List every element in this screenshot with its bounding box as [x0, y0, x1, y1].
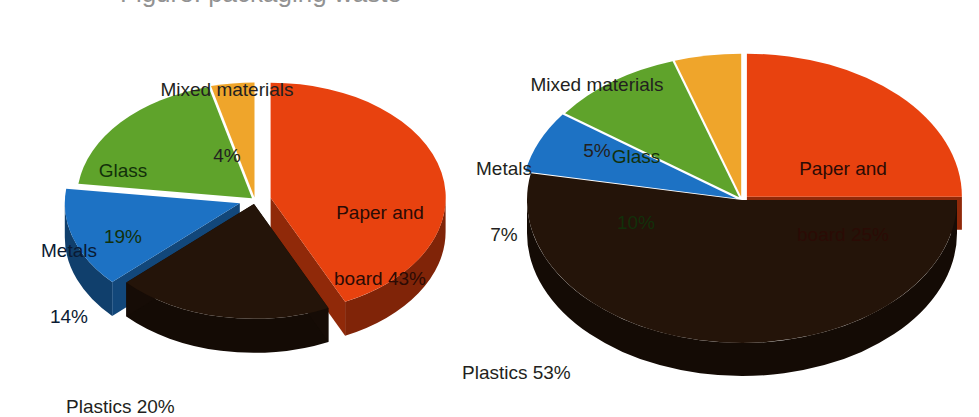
- right-label-paper-line1: Paper and: [780, 158, 906, 180]
- left-label-paper-and-board: Paper and board 43%: [320, 158, 440, 334]
- right-label-metals-line1: Metals: [458, 158, 550, 180]
- right-label-metals: Metals 7%: [458, 114, 550, 290]
- right-label-metals-line2: 7%: [458, 224, 550, 246]
- left-label-plastics: Plastics 20%: [66, 352, 226, 417]
- left-label-metals-line1: Metals: [18, 240, 120, 262]
- left-label-paper-line2: board 43%: [320, 268, 440, 290]
- right-label-paper-line2: board 25%: [780, 224, 906, 246]
- left-label-metals: Metals 14%: [18, 196, 120, 372]
- right-label-glass: Glass 10%: [592, 102, 680, 278]
- left-label-metals-line2: 14%: [18, 306, 120, 328]
- right-label-mixed-materials-line1: Mixed materials: [508, 74, 686, 96]
- left-label-paper-line1: Paper and: [320, 202, 440, 224]
- right-label-paper-and-board: Paper and board 25%: [780, 114, 906, 290]
- left-label-plastics-text: Plastics 20%: [66, 396, 226, 417]
- right-label-glass-line2: 10%: [592, 212, 680, 234]
- left-label-glass-line1: Glass: [78, 160, 168, 182]
- left-label-mixed-materials-line1: Mixed materials: [138, 79, 316, 101]
- right-label-plastics: Plastics 53%: [462, 318, 622, 417]
- right-label-glass-line1: Glass: [592, 146, 680, 168]
- right-label-plastics-text: Plastics 53%: [462, 362, 622, 384]
